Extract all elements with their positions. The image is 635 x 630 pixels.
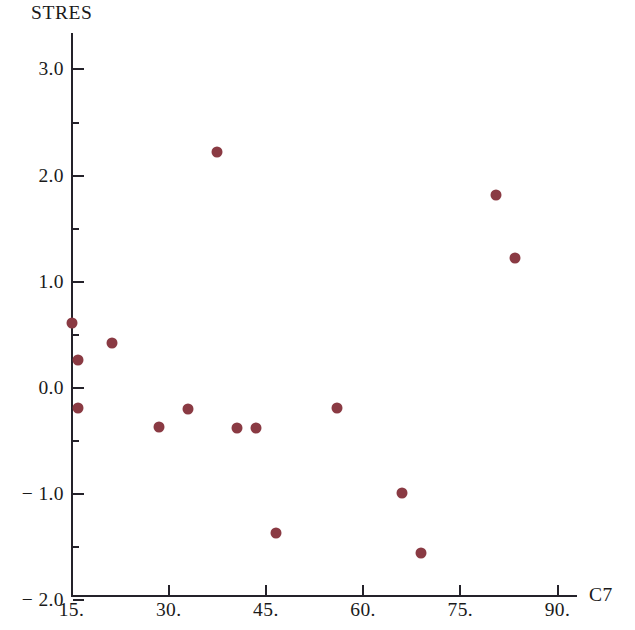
data-point: [396, 488, 407, 499]
scatter-plot-figure: STRES 3.02.01.00.0− 1.0− 2.0 15.30.45.60…: [0, 0, 635, 630]
data-point: [66, 318, 77, 329]
data-point: [107, 338, 118, 349]
data-point: [270, 528, 281, 539]
x-axis-title: C7: [589, 585, 613, 605]
data-point: [153, 422, 164, 433]
data-point: [231, 423, 242, 434]
data-point: [183, 404, 194, 415]
data-point: [510, 253, 521, 264]
data-point: [212, 147, 223, 158]
data-point: [416, 547, 427, 558]
data-point: [72, 403, 83, 414]
data-point: [72, 355, 83, 366]
data-point: [332, 403, 343, 414]
data-point: [490, 189, 501, 200]
data-points-layer: [0, 0, 635, 630]
data-point: [251, 423, 262, 434]
